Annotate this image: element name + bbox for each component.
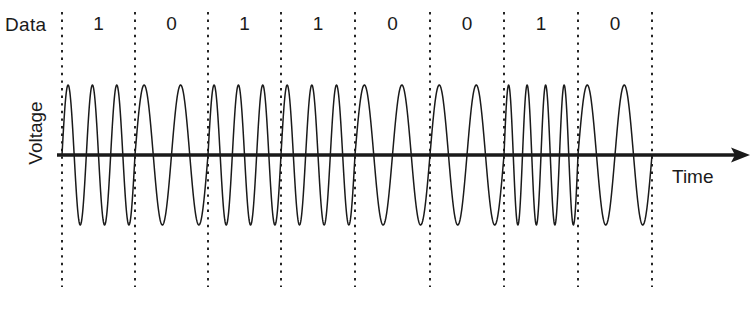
bit-value-label: 1 xyxy=(79,13,119,35)
bit-value-label: 0 xyxy=(373,13,413,35)
bit-value-label: 0 xyxy=(595,13,635,35)
time-axis-label: Time xyxy=(672,166,714,188)
waveform-canvas xyxy=(0,0,755,310)
bit-value-label: 1 xyxy=(225,13,265,35)
bit-separator-lines xyxy=(62,12,652,287)
bit-value-label: 0 xyxy=(152,13,192,35)
bit-value-label: 0 xyxy=(447,13,487,35)
voltage-axis-label: Voltage xyxy=(25,93,47,173)
time-axis xyxy=(57,148,750,163)
data-row-label: Data xyxy=(5,14,46,36)
bit-value-label: 1 xyxy=(521,13,561,35)
bit-value-label: 1 xyxy=(298,13,338,35)
fsk-waveform-figure: Data Voltage Time 10110010 xyxy=(0,0,755,310)
